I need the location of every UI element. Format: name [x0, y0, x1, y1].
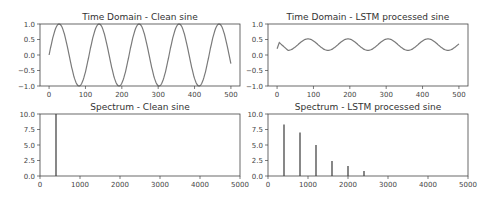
x-tick-label: 300 — [379, 91, 392, 99]
x-tick-label: 200 — [343, 91, 356, 99]
chart-title: Time Domain - Clean sine — [81, 12, 198, 22]
x-tick-label: 5000 — [231, 181, 249, 189]
axes-frame — [268, 114, 468, 176]
y-tick-label: 0.0 — [24, 173, 35, 181]
x-tick-label: 0 — [266, 181, 270, 189]
x-tick-label: 4000 — [191, 181, 209, 189]
chart-title: Time Domain - LSTM processed sine — [286, 12, 450, 22]
x-tick-label: 0 — [38, 181, 42, 189]
axes-frame — [40, 114, 240, 176]
x-tick-label: 500 — [224, 91, 237, 99]
x-tick-label: 400 — [188, 91, 201, 99]
chart-spectrum-clean: Spectrum - Clean sine0100020003000400050… — [19, 102, 249, 189]
x-tick-label: 2000 — [111, 181, 129, 189]
y-tick-label: 1.0 — [24, 21, 35, 29]
y-tick-label: 7.5 — [24, 126, 35, 134]
y-tick-label: 0.5 — [252, 36, 263, 44]
x-tick-label: 500 — [452, 91, 465, 99]
y-tick-label: 1.0 — [252, 21, 263, 29]
y-tick-label: 0.5 — [24, 36, 35, 44]
y-tick-label: 0.0 — [24, 52, 35, 60]
y-tick-label: 10.0 — [247, 111, 263, 119]
chart-time-lstm: Time Domain - LSTM processed sine0100200… — [246, 12, 468, 99]
y-tick-label: 5.0 — [252, 142, 263, 150]
x-tick-label: 0 — [47, 91, 51, 99]
figure: Time Domain - Clean sine0100200300400500… — [0, 0, 495, 199]
y-tick-label: 0.0 — [252, 173, 263, 181]
y-tick-label: 0.0 — [252, 52, 263, 60]
axes-frame — [40, 24, 240, 86]
x-tick-label: 1000 — [71, 181, 89, 189]
x-tick-label: 200 — [115, 91, 128, 99]
line-series — [49, 24, 231, 86]
x-tick-label: 4000 — [419, 181, 437, 189]
x-tick-label: 100 — [307, 91, 320, 99]
y-tick-label: −1.0 — [18, 83, 35, 91]
y-tick-label: 7.5 — [252, 126, 263, 134]
y-tick-label: −0.5 — [18, 67, 35, 75]
x-tick-label: 1000 — [299, 181, 317, 189]
axes-frame — [268, 24, 468, 86]
x-tick-label: 2000 — [339, 181, 357, 189]
chart-time-clean: Time Domain - Clean sine0100200300400500… — [18, 12, 240, 99]
x-tick-label: 100 — [79, 91, 92, 99]
x-tick-label: 3000 — [379, 181, 397, 189]
y-tick-label: 2.5 — [24, 157, 35, 165]
y-tick-label: 2.5 — [252, 157, 263, 165]
x-tick-label: 3000 — [151, 181, 169, 189]
x-tick-label: 300 — [151, 91, 164, 99]
line-series — [277, 39, 459, 51]
x-tick-label: 400 — [416, 91, 429, 99]
y-tick-label: −0.5 — [246, 67, 263, 75]
y-tick-label: 5.0 — [24, 142, 35, 150]
x-tick-label: 0 — [275, 91, 279, 99]
x-tick-label: 5000 — [459, 181, 477, 189]
chart-title: Spectrum - LSTM processed sine — [295, 102, 442, 112]
y-tick-label: −1.0 — [246, 83, 263, 91]
y-tick-label: 10.0 — [19, 111, 35, 119]
chart-title: Spectrum - Clean sine — [90, 102, 190, 112]
chart-spectrum-lstm: Spectrum - LSTM processed sine0100020003… — [247, 102, 477, 189]
